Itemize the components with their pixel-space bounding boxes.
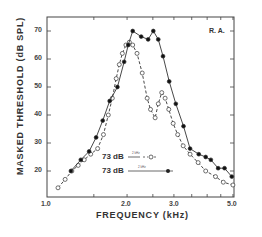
data-point-open [153,116,157,120]
data-point-open [96,147,100,151]
data-point-filled [131,29,135,33]
data-point-filled [94,136,98,140]
data-point-open [106,113,110,117]
data-point-filled [188,147,192,151]
data-point-open [156,102,160,106]
data-point-filled [69,169,73,173]
data-point-filled [116,85,120,89]
chart-canvas [0,0,262,237]
data-point-filled [126,43,130,47]
subject-annotation: R. A. [209,27,225,34]
data-point-open [145,96,149,100]
legend-lines [128,155,173,173]
data-point-open [204,169,208,173]
legend-filled-circle-icon [166,169,170,173]
data-point-open [181,144,185,148]
data-point-filled [87,150,91,154]
y-tick-label: 20 [22,166,42,173]
data-point-filled [156,38,160,42]
x-tick-label: 3.0 [169,200,179,207]
data-point-open [131,43,135,47]
data-point-filled [223,166,227,170]
data-point-filled [108,99,112,103]
data-point-filled [101,119,105,123]
data-point-filled [79,158,83,162]
y-tick-label: 60 [22,54,42,61]
data-point-open [117,63,121,67]
data-point-open [171,121,175,125]
x-tick-label: 1.0 [41,200,51,207]
data-point-open [231,183,235,187]
data-point-open [63,177,67,181]
data-point-open [176,133,180,137]
data-point-open [56,186,60,190]
data-point-filled [230,175,234,179]
data-point-filled [122,60,126,64]
data-point-filled [182,124,186,128]
x-axis-label: FREQUENCY (kHz) [96,210,189,220]
x-tick-label: 2.0 [121,200,131,207]
y-tick-label: 70 [22,26,42,33]
data-point-open [221,180,225,184]
x-tick-label: 5.0 [227,200,237,207]
y-tick-label: 30 [22,138,42,145]
data-point-filled [204,155,208,159]
data-point-open [120,51,124,55]
legend-sublabel-open: 2 kHz [132,151,140,155]
data-point-filled [167,80,171,84]
data-point-open [160,91,164,95]
legend-open-circle-icon [149,155,153,159]
data-point-open [167,107,171,111]
y-tick-label: 50 [22,82,42,89]
data-point-filled [216,166,220,170]
y-tick-label: 40 [22,110,42,117]
data-point-filled [161,54,165,58]
data-point-open [135,51,139,55]
data-point-filled [151,29,155,33]
data-point-open [101,133,105,137]
data-point-open [140,71,144,75]
legend-label-filled: 73 dB [102,166,124,175]
data-point-filled [146,38,150,42]
data-point-open [114,77,118,81]
data-point-filled [139,35,143,39]
legend-label-open: 73 dB [102,152,124,161]
data-point-open [188,152,192,156]
legend-sublabel-filled: 2 kHz [138,165,146,169]
data-point-filled [209,158,213,162]
data-point-open [196,161,200,165]
data-point-filled [197,152,201,156]
data-point-filled [174,102,178,106]
data-point-open [163,96,167,100]
y-tick-marks [47,31,234,171]
data-point-open [149,107,153,111]
data-point-open [214,175,218,179]
